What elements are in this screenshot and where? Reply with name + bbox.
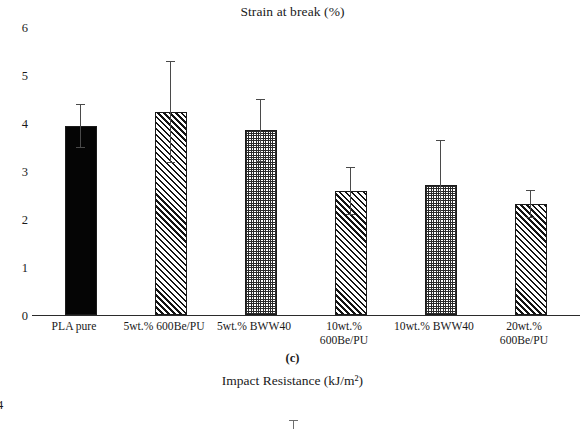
bar-group-1 [38,0,124,315]
x-axis-label-5: 10wt.% BWW40 [384,320,484,334]
x-axis-label-4: 10wt.% 600Be/PU [294,320,394,347]
x-axis-label-3: 5wt.% BWW40 [204,320,304,334]
error-bar-4 [350,167,351,215]
bar-pla-pure[interactable] [65,126,97,315]
x-axis-label-6-line-1: 20wt.% [474,320,574,334]
plot-area: 6 5 4 3 2 1 0 PLA pure 5wt.% 600Be/PU [0,0,585,340]
y-axis-tick-3: 3 [4,166,28,178]
figure-c-strain-at-break: Strain at break (%) 6 5 4 3 2 1 0 PLA pu… [0,0,585,368]
x-axis-label-4-line-1: 10wt.% [294,320,394,334]
next-chart-error-bar [293,420,294,429]
bar-20wt-600be-pu[interactable] [515,204,547,315]
bar-5wt-600be-pu[interactable] [155,112,187,315]
bar-group-3 [218,0,304,315]
y-axis-tick-1: 1 [4,262,28,274]
figure-next-impact-resistance: Impact Resistance (kJ/m²) 4 [0,368,585,429]
error-bar-3 [260,99,261,162]
x-axis-label-1-line-1: PLA pure [24,320,124,334]
bar-group-5 [398,0,484,315]
bar-10wt-bww40[interactable] [425,185,457,315]
x-axis-label-1: PLA pure [24,320,124,334]
y-axis-tick-2: 2 [4,214,28,226]
y-axis-tick-4: 4 [4,118,28,130]
error-bar-5 [440,140,441,230]
next-chart-y-axis-tick: 4 [0,398,3,413]
error-bar-1 [80,104,81,148]
x-axis-line [32,315,580,316]
error-bar-6 [530,190,531,218]
y-axis-tick-5: 5 [4,70,28,82]
x-axis-label-6-line-2: 600Be/PU [474,334,574,348]
bar-10wt-600be-pu[interactable] [335,191,367,315]
x-axis-label-2: 5wt.% 600Be/PU [114,320,214,334]
panel-caption: (c) [0,351,585,366]
next-chart-title: Impact Resistance (kJ/m²) [0,373,585,389]
x-axis-label-4-line-2: 600Be/PU [294,334,394,348]
x-axis-label-3-line-1: 5wt.% BWW40 [204,320,304,334]
x-axis-label-6: 20wt.% 600Be/PU [474,320,574,347]
x-axis-label-5-line-1: 10wt.% BWW40 [384,320,484,334]
bar-group-6 [488,0,574,315]
error-bar-2 [170,61,171,163]
bar-5wt-bww40[interactable] [245,130,277,315]
x-axis-label-2-line-1: 5wt.% 600Be/PU [114,320,214,334]
bar-group-2 [128,0,214,315]
y-axis-tick-6: 6 [4,22,28,34]
bar-group-4 [308,0,394,315]
